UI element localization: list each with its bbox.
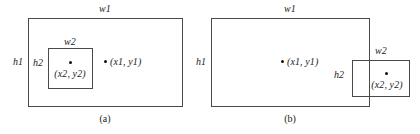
dashed-overlap-boundary-panel-b: [369, 60, 370, 97]
point-label-x2-y2-panel-a: (x2, y2): [54, 68, 85, 79]
point-marker-x1-y1-panel-a: [104, 60, 107, 63]
caption-panel-a: (a): [99, 113, 110, 124]
figure-rectangle-overlap-diagram: w1 h1 w2 h2 (x2, y2) (x1, y1) (a) w1 h1 …: [0, 0, 420, 134]
label-w1-panel-b: w1: [284, 3, 296, 14]
point-marker-x2-y2-panel-a: [69, 61, 72, 64]
caption-panel-b: (b): [284, 113, 296, 124]
point-label-x1-y1-panel-b: (x1, y1): [287, 56, 318, 67]
point-marker-x1-y1-panel-b: [281, 60, 284, 63]
panel-a: w1 h1 w2 h2 (x2, y2) (x1, y1) (a): [0, 0, 210, 134]
label-w2-panel-b: w2: [375, 45, 387, 56]
label-h2-panel-b: h2: [334, 69, 344, 80]
label-h1-panel-b: h1: [196, 56, 206, 67]
label-h1-panel-a: h1: [13, 56, 23, 67]
point-label-x1-y1-panel-a: (x1, y1): [110, 56, 141, 67]
point-label-x2-y2-panel-b: (x2, y2): [371, 79, 402, 90]
label-w2-panel-a: w2: [64, 36, 76, 47]
label-h2-panel-a: h2: [33, 57, 43, 68]
panel-b: w1 h1 (x1, y1) w2 h2 (x2, y2) (b): [210, 0, 420, 134]
label-w1-panel-a: w1: [99, 3, 111, 14]
point-marker-x2-y2-panel-b: [385, 72, 388, 75]
